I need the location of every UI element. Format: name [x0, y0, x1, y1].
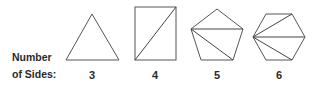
polygon-diagram: 3 4 5 6 [0, 0, 319, 87]
pentagon-diagonal-2 [191, 29, 233, 60]
triangle-figure [66, 14, 119, 60]
quadrilateral-diagonal [135, 7, 176, 60]
sides-label-pentagon: 5 [214, 69, 220, 81]
quadrilateral-figure [135, 7, 176, 60]
hexagon-diagonal-1 [253, 14, 292, 37]
hexagon-figure [253, 14, 305, 60]
triangle-outline [66, 14, 119, 60]
sides-label-triangle: 3 [89, 69, 95, 81]
sides-label-hexagon: 6 [276, 69, 282, 81]
sides-label-quadrilateral: 4 [152, 69, 159, 81]
hexagon-diagonal-3 [253, 37, 292, 60]
pentagon-figure [191, 9, 243, 60]
